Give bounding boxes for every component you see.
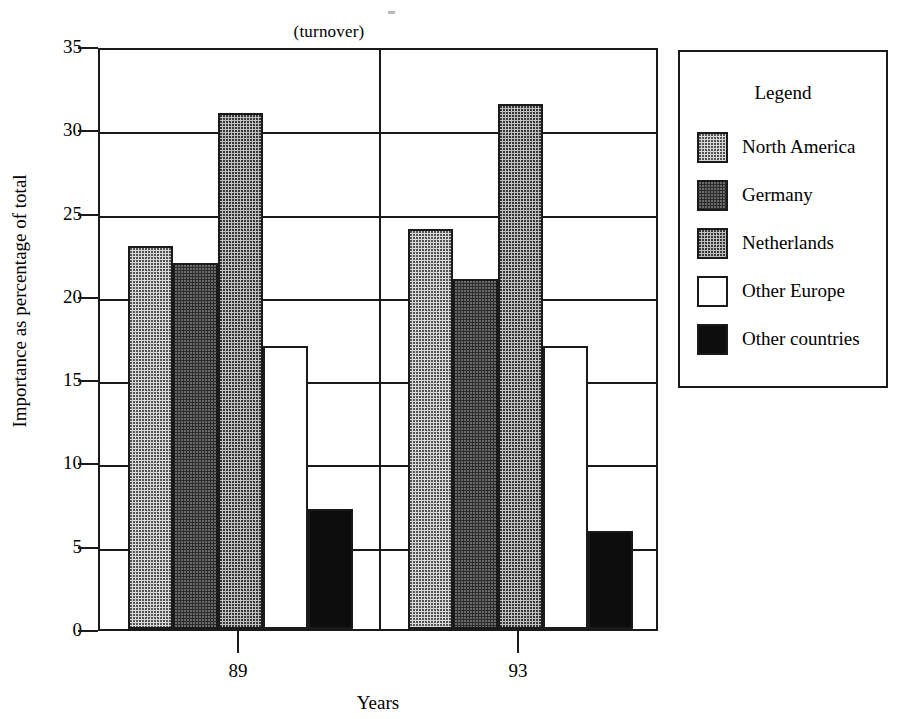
legend-swatch-north-america bbox=[697, 132, 728, 163]
y-tick-mark-10 bbox=[78, 463, 98, 465]
bar-other-countries-93[interactable] bbox=[588, 531, 633, 629]
legend-swatch-germany bbox=[697, 180, 728, 211]
legend: Legend North AmericaGermanyNetherlandsOt… bbox=[678, 50, 888, 388]
bar-north-america-89[interactable] bbox=[128, 246, 173, 629]
x-tick-label-89: 89 bbox=[193, 660, 283, 682]
y-tick-label-20: 20 bbox=[40, 286, 82, 308]
x-tick-mark-93 bbox=[517, 631, 519, 653]
y-tick-mark-15 bbox=[78, 380, 98, 382]
y-tick-mark-5 bbox=[78, 547, 98, 549]
gridline-25 bbox=[100, 216, 656, 218]
bar-other-countries-89[interactable] bbox=[308, 509, 353, 629]
x-tick-mark-89 bbox=[237, 631, 239, 653]
chart-title: (turnover) bbox=[0, 22, 658, 42]
x-tick-label-93: 93 bbox=[473, 660, 563, 682]
y-tick-mark-30 bbox=[78, 130, 98, 132]
y-axis-title: Importance as percentage of total bbox=[9, 66, 31, 536]
legend-label-other-europe: Other Europe bbox=[742, 280, 845, 302]
gridline-30 bbox=[100, 132, 656, 134]
bar-germany-89[interactable] bbox=[173, 263, 218, 629]
legend-label-germany: Germany bbox=[742, 184, 813, 206]
legend-item-netherlands[interactable]: Netherlands bbox=[697, 226, 834, 260]
legend-item-north-america[interactable]: North America bbox=[697, 130, 855, 164]
bar-other-europe-89[interactable] bbox=[263, 346, 308, 629]
y-tick-label-0: 0 bbox=[40, 619, 82, 641]
legend-label-north-america: North America bbox=[742, 136, 855, 158]
bar-netherlands-93[interactable] bbox=[498, 104, 543, 629]
group-divider-1 bbox=[379, 50, 381, 629]
y-tick-label-30: 30 bbox=[40, 119, 82, 141]
y-tick-mark-0 bbox=[78, 630, 98, 632]
legend-item-other-europe[interactable]: Other Europe bbox=[697, 274, 845, 308]
legend-label-other-countries: Other countries bbox=[742, 328, 860, 350]
y-tick-label-15: 15 bbox=[40, 369, 82, 391]
x-axis-title: Years bbox=[98, 692, 658, 714]
y-tick-label-35: 35 bbox=[40, 36, 82, 58]
legend-label-netherlands: Netherlands bbox=[742, 232, 834, 254]
y-tick-label-25: 25 bbox=[40, 203, 82, 225]
y-tick-label-10: 10 bbox=[40, 452, 82, 474]
y-tick-mark-20 bbox=[78, 297, 98, 299]
legend-swatch-other-countries bbox=[697, 324, 728, 355]
y-tick-mark-25 bbox=[78, 214, 98, 216]
legend-swatch-other-europe bbox=[697, 276, 728, 307]
legend-item-germany[interactable]: Germany bbox=[697, 178, 813, 212]
bar-netherlands-89[interactable] bbox=[218, 113, 263, 629]
legend-swatch-netherlands bbox=[697, 228, 728, 259]
scan-artifact-speck bbox=[388, 11, 395, 14]
plot-area bbox=[98, 48, 658, 631]
legend-title: Legend bbox=[680, 82, 886, 104]
y-tick-mark-35 bbox=[78, 47, 98, 49]
y-tick-label-5: 5 bbox=[40, 536, 82, 558]
bar-other-europe-93[interactable] bbox=[543, 346, 588, 629]
legend-item-other-countries[interactable]: Other countries bbox=[697, 322, 860, 356]
bar-north-america-93[interactable] bbox=[408, 229, 453, 629]
bar-germany-93[interactable] bbox=[453, 279, 498, 629]
